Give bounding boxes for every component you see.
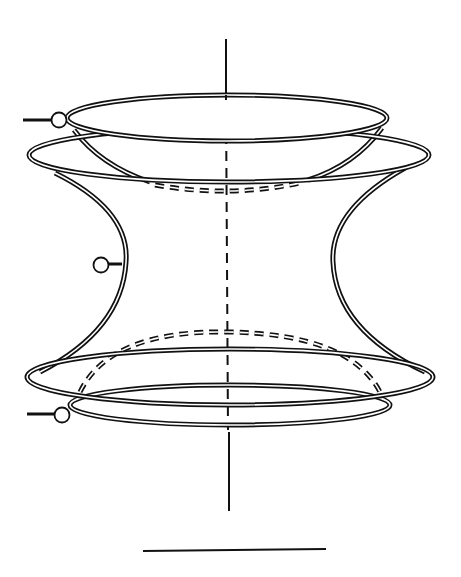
top-inner-ring: [67, 95, 387, 141]
middle-terminal: [94, 258, 123, 273]
scale-bar: [143, 549, 326, 551]
bottom-terminal: [27, 408, 70, 423]
hyperboloid-electrode-diagram: [0, 0, 461, 577]
top-terminal: [23, 113, 67, 128]
